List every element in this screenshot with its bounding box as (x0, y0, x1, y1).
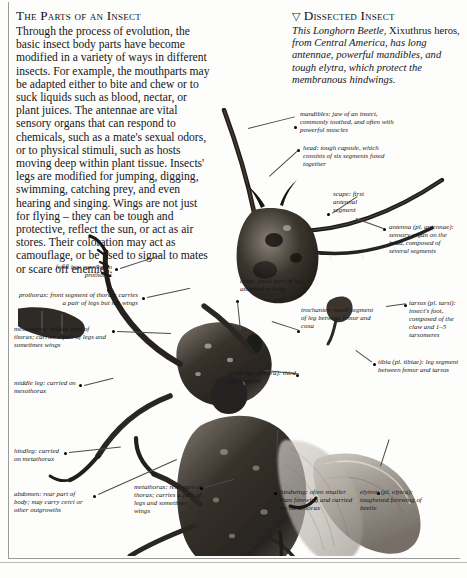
leader-line-head (269, 151, 298, 177)
dissected-insect-title: ▽ Dissected Insect (292, 8, 460, 24)
leader-line-trochanter (272, 321, 299, 331)
left-text-column: The Parts of an Insect Through the proce… (16, 8, 212, 276)
label-abdomen: abdomen: rear part of body; may carry ce… (14, 490, 90, 514)
label-tibia: tibia (pl. tibiae): leg segment between … (378, 358, 464, 374)
leader-dot-front-leg (115, 268, 118, 271)
page-border-left (8, 2, 9, 558)
caption-description: from Central America, has long antennae,… (292, 37, 441, 85)
label-front-leg: front leg: carried on prothorax (30, 263, 112, 279)
label-mesothorax: mesothorax: middle part of thorax; carri… (14, 325, 108, 349)
leader-dot-prothorax (142, 297, 145, 300)
label-hindleg: hindleg: carried on metathorax (14, 447, 62, 463)
label-elytron: elytron (pl. elytra): toughened forewing… (360, 488, 422, 512)
leader-line-antenna (356, 218, 385, 229)
intro-body-text: Through the process of evolution, the ba… (16, 25, 212, 276)
label-tarsus: tarsus (pl. tarsi): insect's foot, compo… (409, 299, 465, 339)
dissected-insect-title-text: Dissected Insect (304, 8, 395, 23)
label-scape: scape: first antennal segment (333, 190, 381, 214)
leader-dot-hindleg (64, 452, 67, 455)
leader-line-coxa (237, 302, 241, 330)
triangle-down-icon: ▽ (292, 10, 300, 22)
caption-species-common: This Longhorn Beetle (292, 25, 384, 36)
label-coxa: coxa: basal part of leg, attached to bod… (240, 277, 308, 293)
page-footer-rule (0, 562, 467, 563)
page-title: The Parts of an Insect (16, 8, 212, 24)
leader-dot-scape (327, 213, 330, 216)
page-canvas: The Parts of an Insect Through the proce… (0, 0, 467, 578)
leader-line-mesothorax (117, 331, 171, 334)
label-mandibles: mandibles: jaw of an insect, commonly to… (300, 110, 404, 134)
right-text-column: ▽ Dissected Insect This Longhorn Beetle,… (292, 8, 460, 86)
leader-line-elytron (380, 439, 390, 466)
label-hindwing: hindwing: often smaller than forewing an… (280, 488, 358, 512)
label-femur: femur (pl. femora): third leg segment (228, 369, 296, 385)
label-trochanter: trochanter: small segment of leg between… (301, 306, 379, 330)
caption-species-latin: , Xixuthrus heros, (384, 25, 460, 36)
leader-dot-mesothorax (112, 330, 115, 333)
label-middle-leg: middle leg: carried on mesothorax (14, 379, 76, 395)
leader-line-mandibles (248, 116, 295, 129)
leader-line-hindwing (276, 430, 278, 462)
leader-dot-middle-leg (79, 384, 82, 387)
leader-dot-hindwing (274, 492, 277, 495)
leader-line-middle-leg (84, 378, 113, 386)
leader-dot-abdomen (93, 495, 96, 498)
label-prothorax: prothorax: front segment of thorax; carr… (14, 291, 138, 307)
leader-line-tibia (355, 350, 372, 363)
leader-line-metathorax (205, 479, 234, 488)
leader-line-prothorax (147, 288, 190, 298)
label-antenna: antenna (pl. antennae): sensory organ on… (389, 223, 461, 255)
page-border-bottom (8, 558, 460, 559)
dissected-insect-caption: This Longhorn Beetle, Xixuthrus heros, f… (292, 25, 460, 86)
leader-line-hindleg (69, 447, 121, 453)
leader-dot-tibia (373, 363, 376, 366)
label-metathorax: metathorax: rear part of thorax; carries… (134, 483, 204, 515)
leader-dot-mandibles (294, 126, 297, 129)
leader-dot-tarsus (404, 304, 407, 307)
leader-line-tarsus (386, 303, 406, 307)
label-head: head: tough capsule, which consists of s… (303, 144, 397, 168)
